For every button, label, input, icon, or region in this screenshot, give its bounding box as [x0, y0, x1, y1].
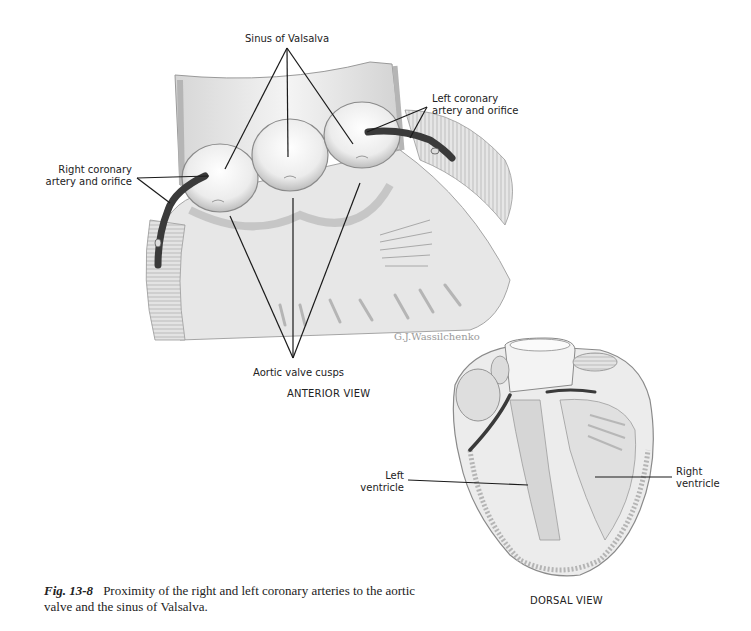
label-right-ventricle-line1: Right — [676, 466, 720, 478]
label-right-coronary-line1: Right coronary — [32, 164, 132, 176]
label-right-ventricle-line2: ventricle — [676, 478, 720, 490]
label-sinus-of-valsalva: Sinus of Valsalva — [245, 33, 329, 45]
figure-number: Fig. 13-8 — [44, 583, 93, 598]
label-right-coronary-line2: artery and orifice — [32, 176, 132, 188]
label-left-coronary: Left coronary artery and orifice — [432, 93, 518, 117]
label-left-coronary-line2: artery and orifice — [432, 105, 518, 117]
label-right-coronary: Right coronary artery and orifice — [32, 164, 132, 188]
figure-caption: Fig. 13-8Proximity of the right and left… — [44, 583, 424, 615]
label-left-ventricle: Left ventricle — [360, 470, 404, 494]
illustrator-signature: G.J.Wassilchenko — [394, 331, 480, 342]
label-left-ventricle-line2: ventricle — [360, 482, 404, 494]
anterior-view-title: ANTERIOR VIEW — [287, 388, 370, 399]
dorsal-view-title: DORSAL VIEW — [530, 595, 603, 606]
textbook-figure-page: Sinus of Valsalva Right coronary artery … — [0, 0, 751, 631]
figure-caption-text: Proximity of the right and left coronary… — [44, 583, 415, 614]
dorsal-view-illustration — [408, 338, 672, 576]
label-left-ventricle-line1: Left — [360, 470, 404, 482]
label-right-ventricle: Right ventricle — [676, 466, 720, 490]
label-aortic-valve-cusps: Aortic valve cusps — [253, 367, 344, 379]
label-left-coronary-line1: Left coronary — [432, 93, 518, 105]
anterior-view-illustration — [0, 0, 751, 631]
